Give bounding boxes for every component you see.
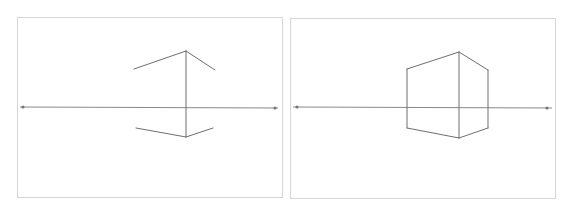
vanishing-point	[21, 105, 24, 108]
vanishing-point	[295, 105, 298, 108]
perspective-diagram	[0, 0, 568, 209]
panel-frame	[291, 19, 556, 199]
vanishing-point	[273, 106, 276, 109]
panel-step-2	[291, 19, 556, 199]
panel-step-1	[18, 18, 283, 198]
vanishing-point	[545, 106, 548, 109]
